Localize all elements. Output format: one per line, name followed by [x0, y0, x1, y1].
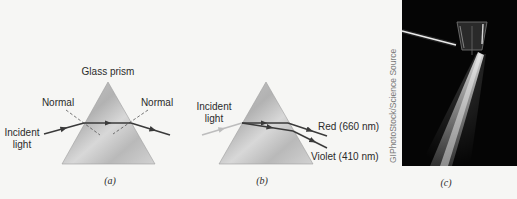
- red-wavelength-label: Red (660 nm): [318, 121, 379, 132]
- photo-credit: GIPhotoStock/Science Source: [388, 48, 398, 163]
- panel-a: Glass prism Normal Normal Incident light…: [4, 66, 173, 187]
- incident-ray-b: [202, 123, 242, 135]
- panel-label-b: (b): [256, 175, 268, 187]
- incident-light-label-b-line2: light: [205, 113, 224, 124]
- incident-light-label-b-line1: Incident: [196, 101, 231, 112]
- panel-label-a: (a): [104, 175, 116, 187]
- panel-label-c: (c): [440, 177, 452, 189]
- prism-figure: Glass prism Normal Normal Incident light…: [0, 0, 517, 199]
- panel-b: Incident light Red (660 nm) Violet (410 …: [196, 82, 379, 187]
- violet-wavelength-label: Violet (410 nm): [311, 151, 379, 162]
- glass-prism-label: Glass prism: [82, 66, 135, 77]
- incident-light-label-a-line2: light: [13, 139, 32, 150]
- incident-ray-a: [44, 123, 84, 134]
- normal-label-right: Normal: [141, 97, 173, 108]
- normal-label-left: Normal: [42, 97, 74, 108]
- incident-light-label-a-line1: Incident: [4, 127, 39, 138]
- panel-c: GIPhotoStock/Science Source (c): [388, 0, 517, 189]
